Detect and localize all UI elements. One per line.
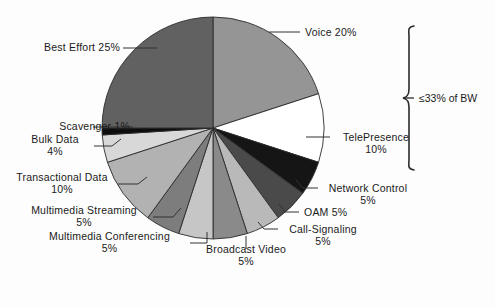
bandwidth-bracket-label: ≤33% of BW [419,92,477,104]
label-multimedia-streaming-name: Multimedia Streaming [18,204,150,217]
label-best-effort: Best Effort 25% [12,41,120,54]
pie-slice-best-effort [102,17,213,128]
label-bulk-data-name: Bulk Data [18,133,92,146]
label-call-signaling-name: Call-Signaling [275,223,371,236]
label-multimedia-conferencing-value: 5% [32,242,187,255]
label-transactional-data-value: 10% [8,183,116,196]
pie-chart-figure: Best Effort 25% Scavenger 1% Bulk Data 4… [0,0,495,307]
label-network-control-value: 5% [318,194,418,207]
label-multimedia-streaming-value: 5% [18,216,150,229]
label-call-signaling-value: 5% [275,235,371,248]
label-scavenger: Scavenger 1% [10,120,130,133]
label-broadcast-video-value: 5% [190,255,302,268]
label-oam: OAM 5% [304,206,384,219]
label-bulk-data-value: 4% [18,145,92,158]
label-telepresence-value: 10% [334,143,418,156]
label-telepresence-name: TelePresence [334,131,418,144]
label-multimedia-conferencing-name: Multimedia Conferencing [32,230,187,243]
label-transactional-data-name: Transactional Data [8,171,116,184]
label-voice: Voice 20% [305,26,415,39]
label-network-control-name: Network Control [318,182,418,195]
